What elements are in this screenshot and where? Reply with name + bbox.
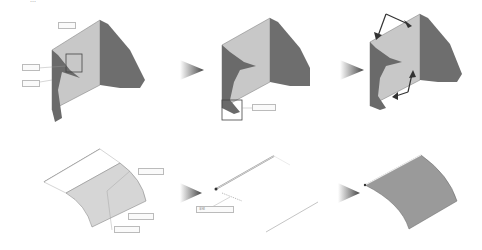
callout-label <box>128 213 154 220</box>
step-arrow <box>338 183 360 203</box>
callout-label <box>114 226 140 233</box>
callout-label <box>22 64 40 71</box>
step-1-bracket-with-labels <box>0 0 160 125</box>
bracket-model-drawing <box>0 0 160 125</box>
bracket-model-drawing <box>160 0 310 125</box>
step-6-shaded-surface <box>360 135 482 250</box>
radius-label: 半径 <box>196 206 234 213</box>
step-4-curved-surface-labels <box>0 135 170 250</box>
step-5-rod-radius: 半径 <box>160 135 320 250</box>
rod-drawing <box>160 135 320 250</box>
shaded-surface-drawing <box>360 135 482 250</box>
callout-label <box>22 80 40 87</box>
curved-surface-drawing <box>0 135 170 250</box>
step-3-bracket-arrows <box>360 0 482 125</box>
callout-label <box>252 104 276 111</box>
step-2-bracket-corner <box>160 0 310 125</box>
callout-label <box>58 22 76 29</box>
bracket-model-drawing <box>360 0 482 125</box>
